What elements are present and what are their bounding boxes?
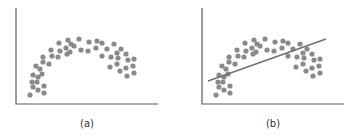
data-point	[303, 68, 308, 73]
data-point	[309, 51, 314, 56]
data-point	[262, 36, 267, 41]
data-point	[63, 45, 68, 50]
data-point	[272, 39, 277, 44]
data-point	[48, 47, 53, 52]
data-point	[124, 73, 129, 78]
data-point	[301, 55, 306, 60]
data-point	[114, 50, 119, 55]
data-point	[104, 46, 109, 51]
data-point	[293, 64, 298, 69]
data-point	[108, 54, 113, 59]
data-point	[216, 84, 221, 89]
data-point	[317, 56, 322, 61]
data-point	[232, 61, 237, 66]
data-point	[242, 40, 247, 45]
data-point	[285, 40, 290, 45]
data-point	[30, 84, 35, 89]
data-point	[41, 90, 46, 95]
data-point	[223, 66, 228, 71]
panel-b-scatter-plot: (b)	[202, 8, 344, 129]
data-point	[125, 57, 130, 62]
data-point	[264, 47, 269, 52]
data-point	[99, 40, 104, 45]
data-point	[220, 79, 225, 84]
data-point	[57, 48, 62, 53]
data-point	[300, 50, 305, 55]
panel-b-caption: (b)	[266, 118, 280, 129]
data-point	[131, 56, 136, 61]
data-point	[300, 61, 305, 66]
data-point	[49, 53, 54, 58]
data-point	[131, 70, 136, 75]
data-point	[213, 92, 218, 97]
data-point	[123, 51, 128, 56]
figure: (a) (b)	[0, 0, 363, 137]
data-point	[316, 63, 321, 68]
data-point	[234, 47, 239, 52]
data-point	[249, 45, 254, 50]
data-point	[40, 54, 45, 59]
data-point	[67, 49, 72, 54]
data-point	[294, 54, 299, 59]
data-point	[114, 61, 119, 66]
data-point	[257, 43, 262, 48]
data-point	[30, 72, 35, 77]
data-point	[41, 83, 46, 88]
data-point	[311, 57, 316, 62]
data-point	[241, 54, 246, 59]
data-point	[117, 68, 122, 73]
data-point	[297, 41, 302, 46]
data-point	[111, 41, 116, 46]
panel-a-scatter-plot: (a)	[16, 8, 158, 129]
data-point	[34, 79, 39, 84]
data-point	[279, 45, 284, 50]
data-point	[310, 73, 315, 78]
data-point	[227, 83, 232, 88]
data-point	[253, 49, 258, 54]
data-point	[235, 53, 240, 58]
data-point	[215, 79, 220, 84]
data-point	[280, 38, 285, 43]
data-point	[99, 53, 104, 58]
linear-fit-line	[208, 39, 326, 81]
data-point	[55, 54, 60, 59]
data-point	[29, 79, 34, 84]
data-point	[226, 54, 231, 59]
panel-a-caption: (a)	[80, 118, 94, 129]
data-point	[78, 47, 83, 52]
panel-a-data-points	[27, 36, 136, 97]
data-point	[221, 87, 226, 92]
data-point	[115, 55, 120, 60]
data-point	[27, 92, 32, 97]
data-point	[285, 53, 290, 58]
data-point	[46, 61, 51, 66]
data-point	[107, 64, 112, 69]
data-point	[271, 48, 276, 53]
data-point	[39, 71, 44, 76]
data-point	[85, 48, 90, 53]
data-point	[317, 70, 322, 75]
data-point	[40, 59, 45, 64]
data-point	[243, 48, 248, 53]
data-point	[226, 59, 231, 64]
data-point	[37, 66, 42, 71]
data-point	[94, 38, 99, 43]
data-point	[130, 63, 135, 68]
data-point	[35, 87, 40, 92]
data-point	[118, 46, 123, 51]
data-point	[76, 36, 81, 41]
data-point	[71, 43, 76, 48]
data-point	[56, 40, 61, 45]
data-point	[123, 65, 128, 70]
data-point	[309, 65, 314, 70]
data-point	[86, 39, 91, 44]
data-point	[93, 45, 98, 50]
data-point	[227, 90, 232, 95]
